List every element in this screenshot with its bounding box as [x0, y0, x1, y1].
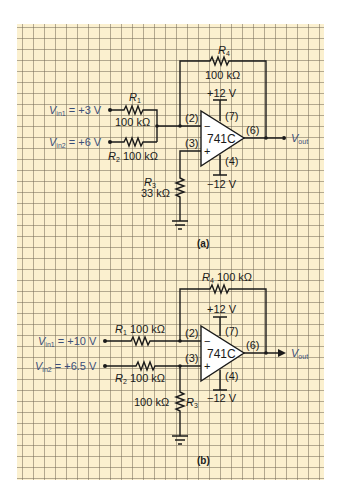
- panel-b-caption: (b): [197, 455, 210, 466]
- inverting-sign: −: [204, 120, 210, 132]
- r3-value: 100 kΩ: [134, 396, 169, 408]
- ground-symbol: [172, 436, 188, 444]
- r4-value: 100 kΩ: [205, 69, 240, 81]
- vpos-label: +12 V: [207, 87, 237, 99]
- pin7-label: (7): [225, 325, 238, 337]
- r4-label: R4: [218, 44, 230, 57]
- vpos-label: +12 V: [207, 303, 237, 315]
- pin6-label: (6): [246, 124, 259, 136]
- r2-resistor: [110, 138, 157, 146]
- r1-label: R1 100 kΩ: [115, 323, 165, 336]
- r2-label: R2 100 kΩ: [115, 372, 165, 385]
- panel-a-caption: (a): [197, 238, 209, 249]
- junction-dot: [264, 351, 268, 355]
- noninverting-sign: +: [204, 360, 210, 372]
- pin7-label: (7): [225, 110, 238, 122]
- pin6-label: (6): [246, 339, 259, 351]
- vin2-label: Vin2 = +6.5 V: [35, 360, 97, 373]
- vout-label: Vout: [291, 132, 308, 145]
- vout-arrow-icon: [278, 349, 286, 357]
- r3-label: R3: [186, 396, 198, 409]
- opamp-model-label: 741C: [207, 347, 236, 361]
- pin4-label: (4): [225, 370, 238, 382]
- r2-label: R2 100 kΩ: [108, 150, 158, 163]
- pin3-label: (3): [185, 137, 198, 149]
- r1-value: 100 kΩ: [115, 116, 150, 128]
- r3-value: 33 kΩ: [141, 187, 170, 199]
- pin2-label: (2): [185, 112, 198, 124]
- pin3-label: (3): [185, 352, 198, 364]
- vneg-label: −12 V: [207, 178, 237, 190]
- vin1-label: Vin1 = +3 V: [49, 104, 102, 117]
- vout-label: Vout: [291, 347, 308, 360]
- inverting-sign: −: [204, 335, 210, 347]
- circuit-diagrams: Vin1 = +3 V Vin2 = +6 V R1 100 kΩ R2 100…: [0, 0, 339, 492]
- junction-dot: [155, 124, 159, 128]
- opamp-model-label: 741C: [207, 132, 236, 146]
- vin1-label: Vin1 = +10 V: [38, 335, 97, 348]
- r1-label: R1: [129, 91, 141, 104]
- r3-resistor: [176, 366, 184, 436]
- noninverting-sign: +: [204, 145, 210, 157]
- junction-dot: [264, 136, 268, 140]
- panel-a-summing-amplifier: Vin1 = +3 V Vin2 = +6 V R1 100 kΩ R2 100…: [49, 44, 308, 249]
- panel-b-differential-amplifier: Vin1 = +10 V Vin2 = +6.5 V R1 100 kΩ R2 …: [35, 271, 308, 466]
- vout-terminal: [282, 136, 286, 140]
- vneg-label: −12 V: [207, 392, 237, 404]
- r3-resistor: [176, 151, 201, 221]
- ground-symbol: [172, 221, 188, 229]
- pin2-label: (2): [185, 327, 198, 339]
- pin4-label: (4): [225, 155, 238, 167]
- r4-label: R4 100 kΩ: [202, 271, 252, 284]
- vin2-label: Vin2 = +6 V: [49, 136, 102, 149]
